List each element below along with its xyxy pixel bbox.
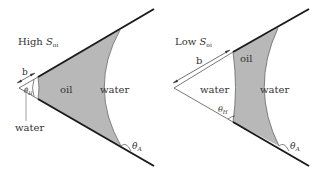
water-label-left: water — [200, 84, 229, 95]
diagram-canvas: High Soi b θH oil water water θA — [0, 0, 322, 177]
svg-text:θA: θA — [132, 141, 142, 152]
wall-thin-upper — [19, 77, 38, 88]
oil-label: oil — [60, 84, 72, 95]
water-label-corner: water — [15, 122, 44, 133]
arrowhead — [173, 80, 178, 84]
svg-text:θH: θH — [218, 105, 228, 115]
panel-title: High — [18, 36, 46, 47]
svg-text:θA: θA — [290, 141, 300, 152]
svg-text:High Soi: High Soi — [18, 36, 58, 48]
hinge-interface — [38, 77, 39, 99]
b-label: b — [22, 67, 28, 77]
arrowhead — [30, 73, 35, 77]
panel-high-soi: High Soi b θH oil water water θA — [15, 9, 154, 166]
theta-h-arc — [33, 80, 35, 97]
oil-label: oil — [240, 53, 252, 64]
panel-low-soi: Low Soi b θH oil water water θA — [173, 9, 309, 166]
b-label: b — [196, 55, 202, 66]
svg-text:θH: θH — [24, 87, 33, 96]
water-label-right: water — [260, 84, 289, 95]
svg-text:Low Soi: Low Soi — [175, 36, 212, 48]
arrowhead — [225, 50, 230, 54]
wall-thin-upper — [174, 52, 233, 88]
panel-title: Low — [175, 36, 199, 47]
water-label-right: water — [100, 84, 129, 95]
arrowhead — [17, 80, 22, 84]
